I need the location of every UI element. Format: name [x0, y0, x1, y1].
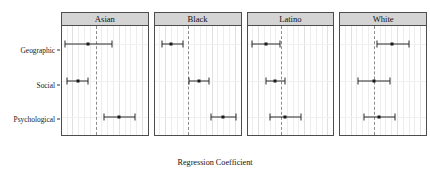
- data-point: [76, 79, 79, 82]
- facet-strip-label: White: [373, 15, 394, 24]
- data-point: [87, 43, 90, 46]
- error-bar-cap-low: [266, 77, 267, 84]
- data-point: [377, 115, 380, 118]
- x-axis-tick: [211, 135, 212, 136]
- y-axis-label-geographic: Geographic: [21, 46, 55, 55]
- y-axis-tick: [57, 84, 60, 85]
- gridline-vertical-minor: [426, 26, 427, 135]
- plot-area: −0.10.00.10.2: [247, 25, 335, 136]
- plot-area: −0.10.00.10.2: [339, 25, 427, 136]
- facet-strip-white: White: [339, 12, 427, 25]
- facet-strip-label: Asian: [95, 15, 115, 24]
- error-bar-cap-low: [65, 41, 66, 48]
- facet-strip-label: Black: [188, 15, 208, 24]
- error-bar-cap-high: [183, 41, 184, 48]
- x-axis-tick: [188, 135, 189, 136]
- data-point: [170, 43, 173, 46]
- x-axis-tick: [72, 135, 73, 136]
- error-bar-cap-high: [135, 113, 136, 120]
- data-point: [264, 43, 267, 46]
- x-axis-tick: [95, 135, 96, 136]
- facet-panel-row: Asian−0.10.00.10.2Black−0.10.00.10.2Lati…: [61, 12, 427, 136]
- facet-panel-white: White−0.10.00.10.2: [339, 12, 427, 136]
- y-axis-label-social: Social: [37, 80, 55, 89]
- x-axis-tick: [165, 135, 166, 136]
- error-bar-cap-low: [66, 77, 67, 84]
- gridline-horizontal: [248, 81, 334, 82]
- x-axis-tick: [397, 135, 398, 136]
- error-bar-cap-high: [300, 113, 301, 120]
- x-axis-title: Regression Coefficient: [0, 158, 430, 167]
- zero-reference-line: [96, 26, 97, 135]
- y-axis-tick: [57, 118, 60, 119]
- data-point: [118, 115, 121, 118]
- error-bar-cap-low: [363, 113, 364, 120]
- gridline-vertical-minor: [333, 26, 334, 135]
- error-bar-cap-low: [104, 113, 105, 120]
- coefficient-plot-figure: GeographicSocialPsychological Asian−0.10…: [0, 0, 430, 175]
- x-axis-tick: [257, 135, 258, 136]
- error-bar-cap-high: [209, 77, 210, 84]
- plot-area: −0.10.00.10.2: [154, 25, 242, 136]
- x-axis-tick: [118, 135, 119, 136]
- error-bar-cap-high: [409, 41, 410, 48]
- facet-strip-asian: Asian: [61, 12, 149, 25]
- error-bar-cap-low: [357, 77, 358, 84]
- error-bar-cap-low: [210, 113, 211, 120]
- x-axis-tick: [141, 135, 142, 136]
- data-point: [197, 79, 200, 82]
- y-axis-label-psychological: Psychological: [14, 114, 55, 123]
- x-axis: −0.10.00.10.2: [248, 135, 334, 136]
- error-bar-cap-low: [161, 41, 162, 48]
- error-bar-cap-low: [376, 41, 377, 48]
- gridline-vertical-minor: [148, 26, 149, 135]
- error-bar-cap-low: [188, 77, 189, 84]
- error-bar-cap-high: [395, 113, 396, 120]
- data-point: [284, 115, 287, 118]
- error-bar-cap-high: [111, 41, 112, 48]
- x-axis: −0.10.00.10.2: [155, 135, 241, 136]
- error-bar-cap-high: [389, 77, 390, 84]
- error-bar-cap-high: [87, 77, 88, 84]
- error-bar-cap-low: [269, 113, 270, 120]
- x-axis: −0.10.00.10.2: [340, 135, 426, 136]
- x-axis-tick: [373, 135, 374, 136]
- error-bar-cap-high: [285, 77, 286, 84]
- x-axis-tick: [327, 135, 328, 136]
- facet-panel-asian: Asian−0.10.00.10.2: [61, 12, 149, 136]
- plot-area: −0.10.00.10.2: [61, 25, 149, 136]
- data-point: [373, 79, 376, 82]
- facet-strip-latino: Latino: [247, 12, 335, 25]
- facet-strip-black: Black: [154, 12, 242, 25]
- x-axis-tick: [281, 135, 282, 136]
- y-axis-tick: [57, 50, 60, 51]
- data-point: [274, 79, 277, 82]
- x-axis-tick: [350, 135, 351, 136]
- error-bar-cap-high: [280, 41, 281, 48]
- data-point: [391, 43, 394, 46]
- error-bar-cap-high: [236, 113, 237, 120]
- data-point: [222, 115, 225, 118]
- x-axis-tick: [304, 135, 305, 136]
- x-axis-tick: [420, 135, 421, 136]
- x-axis: −0.10.00.10.2: [62, 135, 148, 136]
- facet-panel-latino: Latino−0.10.00.10.2: [247, 12, 335, 136]
- error-bar-cap-low: [251, 41, 252, 48]
- facet-strip-label: Latino: [279, 15, 301, 24]
- facet-panel-black: Black−0.10.00.10.2: [154, 12, 242, 136]
- x-axis-tick: [234, 135, 235, 136]
- y-axis-category-labels: GeographicSocialPsychological: [0, 33, 60, 136]
- gridline-vertical-minor: [241, 26, 242, 135]
